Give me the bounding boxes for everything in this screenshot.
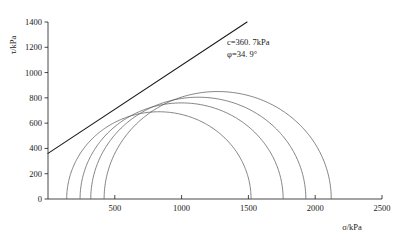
x-axis-tick-label: 2500 <box>374 203 391 213</box>
y-axis-tick-label: 1000 <box>25 68 42 78</box>
y-axis-tick-label: 200 <box>29 169 42 179</box>
x-axis-title: σ/kPa <box>342 222 362 232</box>
y-axis-tick-label: 600 <box>29 118 42 128</box>
annotation-cohesion: c=360. 7kPa <box>227 37 270 47</box>
y-axis-tick-label: 400 <box>29 143 42 153</box>
y-axis-tick-label: 1200 <box>25 42 42 52</box>
x-axis-tick-label: 1000 <box>173 203 190 213</box>
x-axis-tick-label: 2000 <box>307 203 324 213</box>
x-axis-tick-label: 500 <box>108 203 121 213</box>
y-axis-title: τ/kPa <box>8 36 18 55</box>
chart-background <box>0 0 399 243</box>
annotation-friction-angle: φ=34. 9° <box>227 49 257 59</box>
y-axis-tick-label: 1400 <box>25 17 42 27</box>
chart-canvas: 0200400600800100012001400 50010001500200… <box>0 0 399 243</box>
mohr-circle-chart: 0200400600800100012001400 50010001500200… <box>0 0 399 243</box>
y-axis-tick-label: 800 <box>29 93 42 103</box>
y-axis-tick-label: 0 <box>38 194 42 204</box>
x-axis-tick-label: 1500 <box>240 203 257 213</box>
